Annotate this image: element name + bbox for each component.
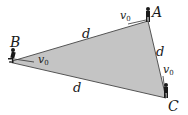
vertex-label-c: C: [168, 98, 179, 114]
side-label-ab: d: [82, 26, 90, 41]
triangle-diagram: A B C d d d v0 v0 v0: [0, 0, 188, 115]
vertex-label-a: A: [150, 4, 162, 20]
side-label-ac: d: [156, 44, 164, 59]
person-icon-c: [164, 83, 168, 98]
vertex-label-b: B: [9, 34, 20, 50]
velocity-label-a: v0: [120, 9, 131, 23]
side-label-bc: d: [73, 80, 81, 95]
person-icon-a: [146, 7, 150, 22]
velocity-label-c: v0: [163, 63, 174, 77]
